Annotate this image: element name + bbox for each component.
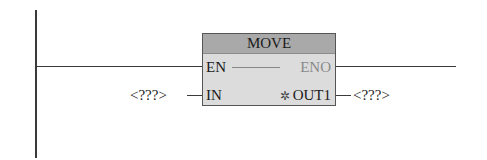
pin-out1: ✲OUT1	[280, 87, 331, 104]
in-wire	[187, 95, 202, 96]
pin-eno: ENO	[300, 59, 331, 75]
in-operand-placeholder[interactable]: <???>	[130, 87, 167, 103]
out-operand-placeholder[interactable]: <???>	[353, 87, 390, 103]
left-power-rail	[35, 10, 37, 158]
pin-out1-label: OUT1	[293, 87, 331, 103]
block-title: MOVE	[203, 34, 335, 54]
out-wire	[336, 95, 351, 96]
pin-en: EN	[206, 59, 226, 75]
rung-wire-eno	[336, 66, 456, 67]
pin-in: IN	[206, 87, 222, 103]
move-instruction-block[interactable]: MOVE EN ENO IN ✲OUT1	[202, 33, 336, 106]
rung-wire-en	[35, 66, 202, 67]
en-eno-link	[232, 67, 280, 68]
add-output-icon[interactable]: ✲	[280, 89, 290, 103]
